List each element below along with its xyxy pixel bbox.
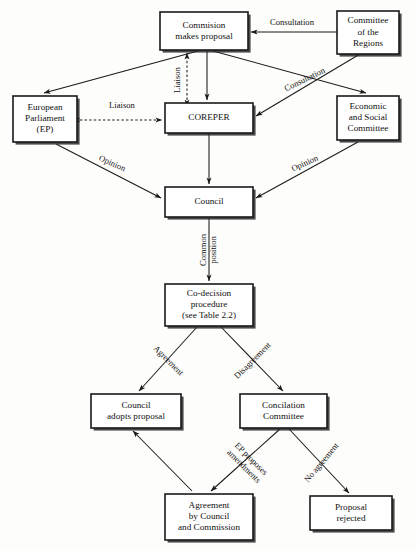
agreement-by-council-and-commission-label-line-1: Agreement xyxy=(189,500,230,510)
concilation-committee-label-line-2: Committee xyxy=(263,411,304,421)
council: Council xyxy=(165,187,256,220)
committee-of-the-regions-label-line-1: Committee xyxy=(348,15,389,25)
edge-common-position-council-to-codecision-label-line-2: position xyxy=(208,235,218,263)
co-decision-procedure-label-line-1: Co-decision xyxy=(187,288,232,298)
edge-opinion-ep-to-council xyxy=(56,144,161,198)
european-parliament-label-line-1: European xyxy=(27,102,63,112)
edge-agreement-to-council-adopts xyxy=(133,431,192,491)
proposal-rejected: Proposalrejected xyxy=(310,496,395,533)
edge-opinion-ep-to-council-label-group: Opinion xyxy=(98,153,128,174)
economic-and-social-committee: Economicand SocialCommittee xyxy=(337,96,402,143)
council-adopts-proposal-label-line-2: adopts proposal xyxy=(107,411,165,421)
edge-consultation-regions-to-commission-label-line-1: Consultation xyxy=(270,17,315,27)
concilation-committee-label-line-1: Concilation xyxy=(262,400,305,410)
commission-makes-proposal-label-line-1: Commision xyxy=(183,20,226,30)
concilation-committee: ConcilationCommittee xyxy=(240,394,330,431)
edge-opinion-economic-to-council xyxy=(256,142,358,198)
commission-makes-proposal: Commisionmakes proposal xyxy=(160,12,251,53)
edge-common-position-council-to-codecision-label-group: Commonposition xyxy=(198,233,218,266)
committee-of-the-regions: Committeeof theRegions xyxy=(337,11,402,57)
commission-makes-proposal-label-line-2: makes proposal xyxy=(175,31,233,41)
proposal-rejected-label-line-2: rejected xyxy=(336,513,365,523)
agreement-by-council-and-commission-label-line-2: by Council xyxy=(189,511,230,521)
edge-liaison-coreper-to-commission-label-group: Liaison xyxy=(172,66,182,92)
co-decision-procedure-label-line-2: procedure xyxy=(191,299,228,309)
council-adopts-proposal-label-line-1: Council xyxy=(121,400,151,410)
co-decision-procedure: Co-decisionprocedure(see Table 2.2) xyxy=(165,284,256,329)
eu-legislative-procedure-flowchart: Commisionmakes proposalCommitteeof theRe… xyxy=(0,0,417,550)
flowchart-container: Commisionmakes proposalCommitteeof theRe… xyxy=(0,0,417,550)
committee-of-the-regions-label-line-2: of the xyxy=(357,27,378,37)
edge-consultation-regions-to-coreper-label-group: Consultation xyxy=(283,65,327,94)
european-parliament-label-line-3: (EP) xyxy=(37,124,54,134)
economic-and-social-committee-label-line-1: Economic xyxy=(349,101,386,111)
edge-agreement-codecision-to-council-adopts-label-group: Agreement xyxy=(152,343,186,377)
edge-consultation-regions-to-commission-label-group: Consultation xyxy=(270,17,315,27)
edge-ep-proposes-amendments-label-group: EP proposesamendments xyxy=(225,440,271,486)
edge-liaison-coreper-to-commission-label-line-1: Liaison xyxy=(172,66,182,92)
european-parliament: EuropeanParliament(EP) xyxy=(13,96,80,145)
coreper-label-line-1: COREPER xyxy=(188,112,230,122)
edge-liaison-ep-to-coreper-label-group: Liaison xyxy=(109,100,135,110)
edge-opinion-ep-to-council-label-line-1: Opinion xyxy=(98,153,128,174)
economic-and-social-committee-label-line-2: and Social xyxy=(349,112,388,122)
edge-common-position-council-to-codecision-label-line-1: Common xyxy=(198,233,208,266)
council-adopts-proposal: Counciladopts proposal xyxy=(91,394,184,431)
committee-of-the-regions-label-line-3: Regions xyxy=(353,38,384,48)
edge-opinion-economic-to-council-label-group: Opinion xyxy=(290,152,320,173)
economic-and-social-committee-label-line-3: Committee xyxy=(348,123,389,133)
edge-liaison-ep-to-coreper-label-line-1: Liaison xyxy=(109,100,135,110)
coreper: COREPER xyxy=(165,103,256,136)
council-label-line-1: Council xyxy=(194,196,224,206)
co-decision-procedure-label-line-3: (see Table 2.2) xyxy=(182,310,236,320)
edge-consultation-regions-to-coreper-label-line-1: Consultation xyxy=(283,65,327,94)
agreement-by-council-and-commission-label-line-3: and Commission xyxy=(178,522,240,532)
edge-opinion-economic-to-council-label-line-1: Opinion xyxy=(290,152,320,173)
agreement-by-council-and-commission: Agreementby Counciland Commission xyxy=(165,494,256,543)
proposal-rejected-label-line-1: Proposal xyxy=(335,502,368,512)
edge-agreement-codecision-to-council-adopts-label-line-1: Agreement xyxy=(152,343,186,377)
european-parliament-label-line-2: Parliament xyxy=(25,113,65,123)
